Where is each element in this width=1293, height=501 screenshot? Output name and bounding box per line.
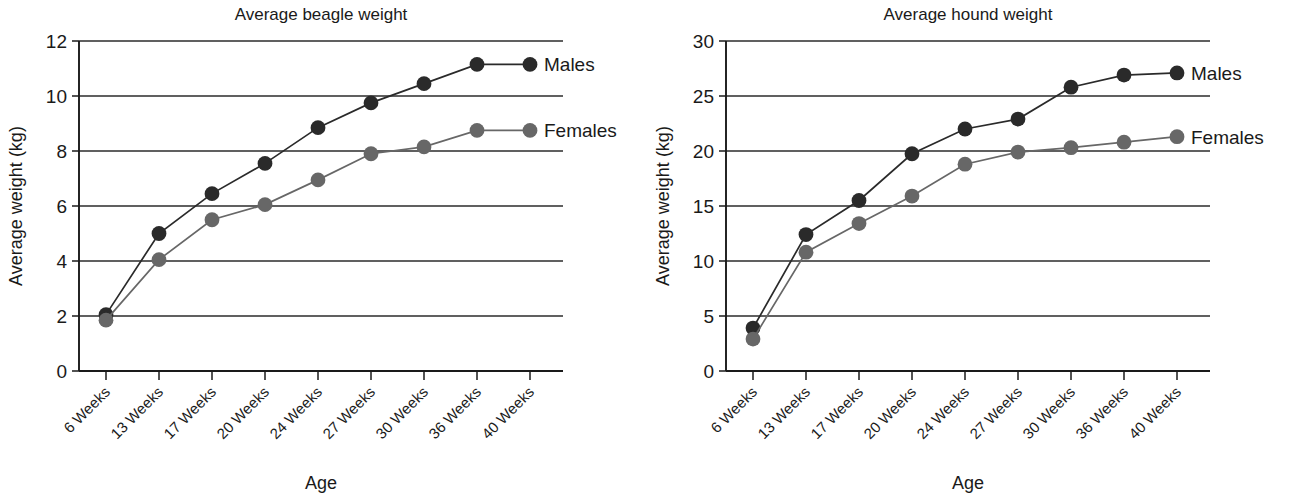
data-point-females-6 [1064, 140, 1079, 155]
x-tick-label: 13 Weeks [754, 383, 813, 442]
x-tick-label: 6 Weeks [707, 383, 760, 436]
data-point-males-4 [311, 120, 326, 135]
x-tick-label: 20 Weeks [860, 383, 919, 442]
x-tick-label: 20 Weeks [213, 383, 272, 442]
series-line-males [106, 64, 530, 314]
beagle-weight-line-chart: Average beagle weight 024681012 6 Weeks1… [0, 0, 646, 501]
y-axis-group: 024681012 [46, 31, 79, 382]
data-point-females-7 [470, 123, 485, 138]
data-point-females-4 [311, 172, 326, 187]
y-tick-label: 10 [46, 86, 67, 107]
y-tick-label: 0 [703, 361, 714, 382]
data-point-females-1 [799, 245, 814, 260]
data-point-males-5 [364, 95, 379, 110]
chart-title: Average hound weight [884, 5, 1053, 24]
data-point-males-1 [152, 226, 167, 241]
x-tick-label: 36 Weeks [425, 383, 484, 442]
legend-label-males: Males [544, 54, 595, 75]
y-tick-label: 5 [703, 306, 714, 327]
x-axis-group: 6 Weeks13 Weeks17 Weeks20 Weeks24 Weeks2… [60, 371, 537, 442]
y-tick-label: 8 [56, 141, 67, 162]
data-point-males-6 [417, 76, 432, 91]
data-point-females-7 [1117, 135, 1132, 150]
y-axis-title: Average weight (kg) [653, 126, 673, 286]
x-axis-title: Age [305, 473, 337, 493]
data-point-females-6 [417, 139, 432, 154]
x-tick-label: 6 Weeks [60, 383, 113, 436]
gridlines-group [79, 41, 563, 371]
x-tick-label: 24 Weeks [266, 383, 325, 442]
data-point-females-2 [205, 212, 220, 227]
chart-panel-hound: Average hound weight 051015202530 6 Week… [647, 0, 1293, 501]
x-tick-label: 30 Weeks [372, 383, 431, 442]
y-tick-label: 30 [693, 31, 714, 52]
hound-weight-line-chart: Average hound weight 051015202530 6 Week… [647, 0, 1293, 501]
data-point-males-1 [799, 227, 814, 242]
chart-panel-beagle: Average beagle weight 024681012 6 Weeks1… [0, 0, 646, 501]
x-tick-label: 36 Weeks [1072, 383, 1131, 442]
data-point-males-7 [1117, 68, 1132, 83]
y-tick-label: 25 [693, 86, 714, 107]
data-point-males-3 [905, 146, 920, 161]
y-tick-label: 2 [56, 306, 67, 327]
data-point-females-3 [258, 197, 273, 212]
y-tick-label: 15 [693, 196, 714, 217]
series-group [99, 57, 538, 328]
x-tick-label: 40 Weeks [1125, 383, 1184, 442]
legend-group: MalesFemales [544, 54, 617, 141]
data-point-males-6 [1064, 80, 1079, 95]
y-axis-title: Average weight (kg) [6, 126, 26, 286]
y-axis-group: 051015202530 [693, 31, 726, 382]
x-tick-label: 27 Weeks [319, 383, 378, 442]
data-point-males-2 [852, 193, 867, 208]
chart-title: Average beagle weight [235, 5, 408, 24]
x-tick-label: 27 Weeks [966, 383, 1025, 442]
data-point-females-8 [1170, 129, 1185, 144]
legend-group: MalesFemales [1191, 63, 1264, 148]
data-point-males-3 [258, 156, 273, 171]
y-tick-label: 4 [56, 251, 67, 272]
x-tick-label: 17 Weeks [160, 383, 219, 442]
x-tick-label: 24 Weeks [913, 383, 972, 442]
legend-label-females: Females [1191, 127, 1264, 148]
y-tick-label: 20 [693, 141, 714, 162]
series-line-males [753, 73, 1177, 328]
data-point-males-8 [1170, 66, 1185, 81]
legend-label-males: Males [1191, 63, 1242, 84]
x-tick-label: 13 Weeks [107, 383, 166, 442]
legend-label-females: Females [544, 120, 617, 141]
x-tick-label: 40 Weeks [478, 383, 537, 442]
data-point-males-5 [1011, 112, 1026, 127]
data-point-females-0 [99, 313, 114, 328]
data-point-females-0 [746, 332, 761, 347]
data-point-females-3 [905, 189, 920, 204]
y-tick-label: 6 [56, 196, 67, 217]
data-point-males-7 [470, 57, 485, 72]
data-point-females-4 [958, 157, 973, 172]
figure-two-line-charts: Average beagle weight 024681012 6 Weeks1… [0, 0, 1293, 501]
data-point-females-1 [152, 252, 167, 267]
data-point-females-5 [364, 146, 379, 161]
data-point-males-4 [958, 122, 973, 137]
x-tick-label: 30 Weeks [1019, 383, 1078, 442]
gridlines-group [726, 41, 1210, 371]
x-tick-label: 17 Weeks [807, 383, 866, 442]
y-tick-label: 0 [56, 361, 67, 382]
y-tick-label: 12 [46, 31, 67, 52]
data-point-males-8 [523, 57, 538, 72]
data-point-females-5 [1011, 145, 1026, 160]
x-axis-group: 6 Weeks13 Weeks17 Weeks20 Weeks24 Weeks2… [707, 371, 1184, 442]
y-tick-label: 10 [693, 251, 714, 272]
data-point-females-2 [852, 216, 867, 231]
data-point-males-2 [205, 186, 220, 201]
data-point-females-8 [523, 123, 538, 138]
x-axis-title: Age [952, 473, 984, 493]
